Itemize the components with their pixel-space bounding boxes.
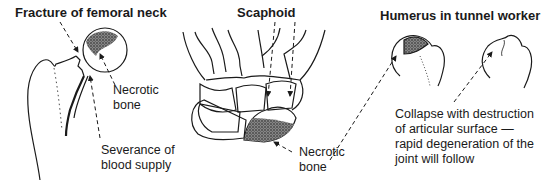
panel-title-femoral-neck: Fracture of femoral neck bbox=[15, 5, 167, 20]
humerus-drawing-collapsed bbox=[482, 35, 531, 88]
label-collapse-description: Collapse with destruction of articular s… bbox=[395, 107, 534, 167]
label-severance-blood-supply: Severance of blood supply bbox=[101, 143, 175, 173]
panel-title-humerus: Humerus in tunnel worker bbox=[380, 8, 540, 23]
label-necrotic-bone-femur: Necrotic bone bbox=[113, 83, 159, 113]
panel-title-scaphoid: Scaphoid bbox=[237, 5, 296, 20]
diagram-avascular-necrosis: Fracture of femoral neck Scaphoid Humeru… bbox=[0, 0, 558, 183]
humerus-drawing-necrotic bbox=[392, 36, 445, 86]
scaphoid-necrotic-area bbox=[244, 118, 294, 142]
label-necrotic-bone-scaphoid: Necrotic bone bbox=[299, 145, 345, 175]
